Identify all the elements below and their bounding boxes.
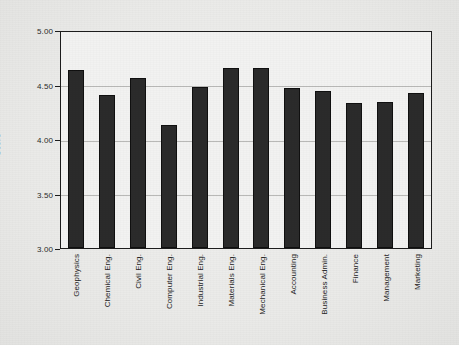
x-axis-tick-label: Computer Eng. — [164, 254, 173, 309]
y-tick-label-3: 3.50 — [13, 190, 53, 199]
bar[interactable] — [223, 68, 239, 248]
bar-slot — [123, 32, 154, 248]
bar-slot — [92, 32, 123, 248]
x-axis-labels: GeophysicsChemical Eng.Civil Eng.Compute… — [60, 252, 432, 344]
x-axis-tick-label: Chemical Eng. — [102, 254, 111, 307]
bar[interactable] — [192, 87, 208, 248]
x-axis-tick-label: Materials Eng. — [226, 254, 235, 307]
y-tick-mark — [55, 249, 60, 250]
y-tick-label-2: 4.00 — [13, 136, 53, 145]
y-axis-title: Score — [0, 133, 2, 155]
bar[interactable] — [253, 68, 269, 248]
bar-slot — [61, 32, 92, 248]
x-label-slot: Finance — [339, 252, 370, 344]
x-axis-tick-label: Geophysics — [71, 254, 80, 297]
y-tick-label-1: 4.50 — [13, 81, 53, 90]
bar-slot — [369, 32, 400, 248]
x-axis-tick-label: Industrial Eng. — [195, 254, 204, 307]
x-axis-tick-label: Accounting — [288, 254, 297, 295]
bar-slot — [246, 32, 277, 248]
y-tick-label-0: 5.00 — [13, 27, 53, 36]
x-label-slot: Materials Eng. — [215, 252, 246, 344]
bar[interactable] — [99, 95, 115, 248]
y-tick-label-4: 3.00 — [13, 245, 53, 254]
bar-slot — [277, 32, 308, 248]
x-label-slot: Management — [370, 252, 401, 344]
bar[interactable] — [130, 78, 146, 248]
bar[interactable] — [346, 103, 362, 248]
bar-slot — [308, 32, 339, 248]
x-axis-tick-label: Mechanical Eng. — [257, 254, 266, 315]
bar[interactable] — [68, 70, 84, 248]
bar[interactable] — [408, 93, 424, 248]
x-label-slot: Industrial Eng. — [184, 252, 215, 344]
x-axis-tick-label: Marketing — [412, 254, 421, 290]
x-label-slot: Civil Eng. — [122, 252, 153, 344]
bar[interactable] — [377, 102, 393, 248]
x-label-slot: Computer Eng. — [153, 252, 184, 344]
bar-slot — [184, 32, 215, 248]
x-axis-tick-label: Management — [381, 254, 390, 302]
x-axis-tick-label: Business Admin. — [319, 254, 328, 315]
bar-slot — [215, 32, 246, 248]
bar-slot — [400, 32, 431, 248]
bar-slot — [153, 32, 184, 248]
bar[interactable] — [161, 125, 177, 248]
bar-series — [61, 32, 431, 248]
x-label-slot: Geophysics — [60, 252, 91, 344]
x-label-slot: Accounting — [277, 252, 308, 344]
x-label-slot: Chemical Eng. — [91, 252, 122, 344]
bar-slot — [338, 32, 369, 248]
x-label-slot: Marketing — [401, 252, 432, 344]
x-axis-tick-label: Finance — [350, 254, 359, 283]
bar[interactable] — [315, 91, 331, 248]
x-label-slot: Mechanical Eng. — [246, 252, 277, 344]
chart-page: 5.00 4.50 4.00 3.50 3.00 Score Geophysic… — [0, 0, 459, 345]
bar[interactable] — [284, 88, 300, 248]
plot-area — [60, 31, 432, 249]
x-label-slot: Business Admin. — [308, 252, 339, 344]
x-axis-tick-label: Civil Eng. — [133, 254, 142, 289]
